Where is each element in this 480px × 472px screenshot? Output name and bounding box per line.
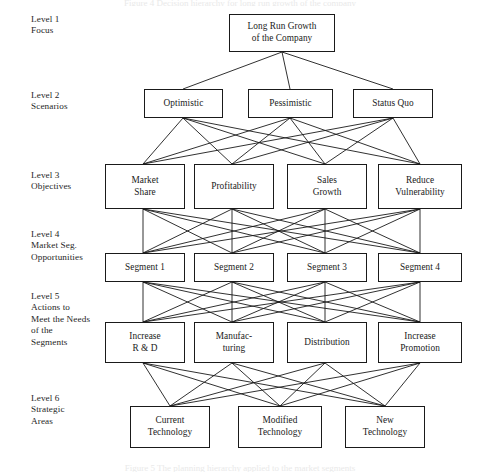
level-label-level-4: Level 4 Market Seg. Opportunities <box>31 229 83 263</box>
level-label-level-6: Level 6 Strategic Areas <box>31 393 65 427</box>
level-label-level-3: Level 3 Objectives <box>31 170 71 193</box>
level-label-level-1: Level 1 Focus <box>31 14 60 37</box>
level-label-level-2: Level 2 Scenarios <box>31 90 68 113</box>
level-label-level-5: Level 5 Actions to Meet the Needs of the… <box>31 291 90 348</box>
